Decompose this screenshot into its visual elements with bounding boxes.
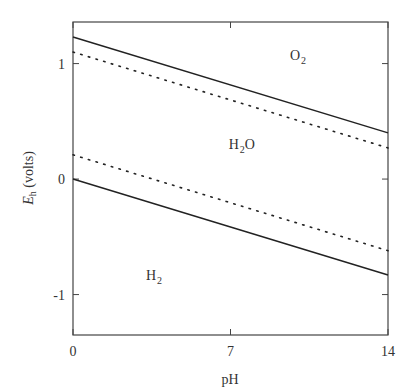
plot-frame	[73, 22, 388, 335]
solid-boundary-line	[73, 179, 388, 275]
y-tick-label: 0	[58, 172, 65, 187]
x-axis-label: pH	[221, 372, 238, 387]
y-axis-label: Eh (volts)	[21, 151, 38, 206]
pourbaix-chart: 071410-1 O2H2OH2 pH Eh (volts)	[0, 0, 415, 392]
dotted-boundary-line	[73, 155, 388, 251]
region-label: H2	[146, 268, 162, 286]
x-tick-label: 14	[381, 344, 395, 359]
x-tick-label: 0	[70, 344, 77, 359]
y-tick-label: 1	[58, 57, 65, 72]
y-tick-label: -1	[53, 288, 65, 303]
solid-boundary-line	[73, 37, 388, 133]
x-tick-label: 7	[227, 344, 234, 359]
region-label: O2	[290, 48, 306, 66]
dotted-boundary-line	[73, 52, 388, 148]
region-label: H2O	[229, 137, 255, 155]
